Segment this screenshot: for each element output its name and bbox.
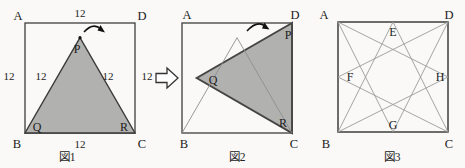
fig3-label-f: F [347, 70, 354, 84]
fig3-label-a: A [319, 8, 328, 22]
figure3: A D B C E F G H 図3 [319, 8, 453, 163]
fig2-label-q: Q [209, 73, 218, 87]
fig2-rotation-arrow-icon [247, 23, 270, 32]
fig2-label-d: D [290, 8, 299, 22]
geometry-worksheet: A D B C 12 12 12 12 12 12 P Q R 図1 A D B… [0, 0, 465, 168]
fig1-rotation-arrow-icon [84, 25, 105, 33]
fig2-label-c: C [290, 137, 298, 151]
fig1-label-q: Q [33, 120, 42, 134]
fig1-label-d: D [137, 9, 146, 23]
fig2-label-b: B [180, 137, 188, 151]
figure1: A D B C 12 12 12 12 12 12 P Q R 図1 [4, 7, 153, 163]
diagram-canvas: A D B C 12 12 12 12 12 12 P Q R 図1 A D B… [0, 0, 465, 168]
fig2-label-a: A [182, 8, 191, 22]
fig2-label-r: R [279, 116, 287, 130]
fig1-label-c: C [138, 137, 146, 151]
transform-arrow-icon [156, 68, 178, 88]
fig3-label-b: B [322, 137, 330, 151]
fig1-label-p: P [74, 42, 81, 56]
fig1-length-right: 12 [142, 70, 153, 82]
fig3-label-d: D [444, 8, 453, 22]
fig1-label-r: R [120, 120, 128, 134]
fig3-label-h: H [436, 70, 445, 84]
fig3-label-g: G [389, 118, 398, 132]
fig2-label-p: P [285, 28, 292, 42]
fig3-label-c: C [445, 137, 453, 151]
fig3-caption: 図3 [384, 151, 401, 163]
fig2-caption: 図2 [229, 151, 246, 163]
fig1-caption: 図1 [59, 151, 76, 163]
fig1-apex-dot [78, 36, 81, 39]
fig1-length-slant-left: 12 [36, 70, 47, 82]
fig1-length-slant-right: 12 [103, 70, 114, 82]
fig3-label-e: E [389, 25, 396, 39]
fig1-label-b: B [13, 137, 21, 151]
figure2: A D B C P Q R 図2 [180, 8, 300, 163]
fig1-length-left: 12 [4, 70, 15, 82]
fig1-label-a: A [13, 9, 22, 23]
fig1-length-bottom: 12 [75, 138, 86, 150]
fig1-length-top: 12 [75, 7, 86, 19]
